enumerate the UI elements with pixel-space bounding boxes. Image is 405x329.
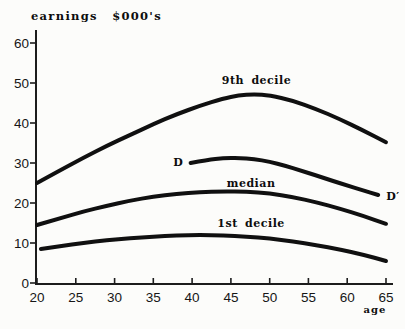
x-tick-label: 65 xyxy=(378,290,393,305)
x-tick-label: 45 xyxy=(223,290,238,305)
x-tick-label: 35 xyxy=(146,290,161,305)
x-tick-label: 40 xyxy=(185,290,200,305)
y-tick-label: 60 xyxy=(14,36,29,51)
y-tick-label: 30 xyxy=(14,156,29,171)
y-tick-label: 20 xyxy=(14,196,29,211)
curve-label-cohort-D: D′ xyxy=(386,190,399,203)
curve-label-cohort-D: D xyxy=(173,156,183,169)
curve-label-9th-decile: 9th decile xyxy=(222,74,291,87)
x-axis-label: age xyxy=(364,304,387,315)
curve-1st-decile xyxy=(41,235,386,261)
y-tick-label: 40 xyxy=(14,116,29,131)
x-tick-label: 55 xyxy=(301,290,316,305)
y-tick-label: 0 xyxy=(21,276,29,291)
x-tick-label: 50 xyxy=(262,290,277,305)
figure: earnings $000's age 20253035404550556065… xyxy=(0,0,405,329)
x-tick-label: 60 xyxy=(340,290,355,305)
curve-cohort-D xyxy=(191,158,379,195)
curve-label-1st-decile: 1st decile xyxy=(217,217,285,230)
curve-median xyxy=(37,192,386,225)
curve-9th-decile xyxy=(37,95,386,184)
y-tick-label: 50 xyxy=(14,76,29,91)
x-tick-label: 30 xyxy=(107,290,122,305)
chart-canvas: age 2025303540455055606501020304050609th… xyxy=(0,0,405,329)
curve-label-median: median xyxy=(227,177,276,190)
x-tick-label: 20 xyxy=(29,290,44,305)
x-tick-label: 25 xyxy=(68,290,83,305)
y-tick-label: 10 xyxy=(14,236,29,251)
